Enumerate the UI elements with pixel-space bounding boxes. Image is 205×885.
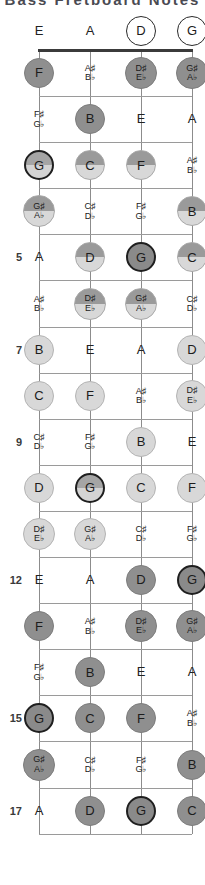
note-marker[interactable]: A♯B♭: [136, 386, 147, 405]
note-circle[interactable]: F: [126, 150, 156, 180]
note-marker[interactable]: C♯D♭: [85, 202, 96, 221]
note-circle[interactable]: D: [126, 16, 156, 46]
note-marker[interactable]: F♯G♭: [33, 663, 44, 682]
note-circle[interactable]: D: [24, 473, 54, 503]
note-marker[interactable]: D♯E♭: [125, 610, 157, 642]
note-marker[interactable]: A: [35, 804, 44, 817]
note-circle[interactable]: G: [126, 242, 156, 272]
note-circle[interactable]: G♯A♭: [176, 57, 205, 89]
note-marker[interactable]: A: [86, 24, 95, 37]
note-marker[interactable]: F♯G♭: [135, 755, 146, 774]
note-circle[interactable]: B: [126, 427, 156, 457]
note-marker[interactable]: A: [86, 573, 95, 586]
note-marker[interactable]: E: [35, 573, 44, 586]
note-marker[interactable]: C♯D♭: [136, 525, 147, 544]
note-circle[interactable]: G: [24, 703, 54, 733]
note-marker[interactable]: D♯E♭: [23, 518, 55, 550]
note-circle[interactable]: F: [24, 611, 54, 641]
note-marker[interactable]: F: [177, 473, 205, 503]
note-marker[interactable]: D: [177, 335, 205, 365]
note-circle[interactable]: C: [177, 796, 205, 826]
note-marker[interactable]: A: [188, 666, 197, 679]
note-circle[interactable]: F: [75, 381, 105, 411]
note-circle[interactable]: F: [177, 473, 205, 503]
note-marker[interactable]: E: [188, 435, 197, 448]
note-marker[interactable]: E: [35, 24, 44, 37]
note-circle[interactable]: G: [75, 473, 105, 503]
note-circle[interactable]: G♯A♭: [74, 518, 106, 550]
note-marker[interactable]: A♯B♭: [85, 617, 96, 636]
note-marker[interactable]: D♯E♭: [74, 288, 106, 320]
note-marker[interactable]: C: [126, 473, 156, 503]
note-circle[interactable]: G: [177, 16, 205, 46]
note-circle[interactable]: D♯E♭: [125, 610, 157, 642]
note-marker[interactable]: C: [75, 150, 105, 180]
note-marker[interactable]: E: [137, 666, 146, 679]
note-marker[interactable]: G♯A♭: [23, 195, 55, 227]
note-marker[interactable]: E: [86, 343, 95, 356]
note-marker[interactable]: F: [24, 611, 54, 641]
note-marker[interactable]: G: [24, 703, 54, 733]
note-marker[interactable]: F: [24, 58, 54, 88]
note-marker[interactable]: G: [126, 242, 156, 272]
note-marker[interactable]: G♯A♭: [74, 518, 106, 550]
note-circle[interactable]: D: [75, 242, 105, 272]
note-marker[interactable]: G♯A♭: [23, 749, 55, 781]
note-circle[interactable]: G: [177, 565, 205, 595]
note-marker[interactable]: F: [75, 381, 105, 411]
note-circle[interactable]: D♯E♭: [74, 288, 106, 320]
note-marker[interactable]: E: [137, 112, 146, 125]
note-circle[interactable]: G: [126, 796, 156, 826]
note-marker[interactable]: D: [75, 242, 105, 272]
note-marker[interactable]: C♯D♭: [85, 755, 96, 774]
note-marker[interactable]: C: [177, 242, 205, 272]
note-circle[interactable]: B: [24, 335, 54, 365]
note-circle[interactable]: D: [177, 335, 205, 365]
note-circle[interactable]: F: [24, 58, 54, 88]
note-marker[interactable]: B: [24, 335, 54, 365]
note-marker[interactable]: D: [75, 796, 105, 826]
note-marker[interactable]: C: [24, 381, 54, 411]
note-circle[interactable]: D: [75, 796, 105, 826]
note-circle[interactable]: D: [126, 565, 156, 595]
note-marker[interactable]: G: [177, 16, 205, 46]
note-circle[interactable]: G♯A♭: [125, 288, 157, 320]
note-circle[interactable]: G♯A♭: [176, 610, 205, 642]
note-circle[interactable]: D♯E♭: [125, 57, 157, 89]
note-marker[interactable]: G: [75, 473, 105, 503]
note-marker[interactable]: A: [137, 343, 146, 356]
note-marker[interactable]: G: [24, 150, 54, 180]
note-marker[interactable]: A♯B♭: [187, 709, 198, 728]
note-marker[interactable]: B: [126, 427, 156, 457]
note-marker[interactable]: A♯B♭: [187, 156, 198, 175]
note-circle[interactable]: B: [177, 196, 205, 226]
note-circle[interactable]: C: [75, 150, 105, 180]
note-marker[interactable]: G: [126, 796, 156, 826]
note-marker[interactable]: G♯A♭: [176, 57, 205, 89]
note-circle[interactable]: C: [177, 242, 205, 272]
note-circle[interactable]: G: [24, 150, 54, 180]
note-marker[interactable]: G: [177, 565, 205, 595]
note-marker[interactable]: G♯A♭: [125, 288, 157, 320]
note-circle[interactable]: C: [75, 703, 105, 733]
note-marker[interactable]: A♯B♭: [34, 294, 45, 313]
note-circle[interactable]: G♯A♭: [23, 195, 55, 227]
note-marker[interactable]: C: [75, 703, 105, 733]
note-marker[interactable]: D♯E♭: [125, 57, 157, 89]
note-marker[interactable]: A♯B♭: [85, 64, 96, 83]
note-marker[interactable]: A: [35, 251, 44, 264]
note-circle[interactable]: D♯E♭: [23, 518, 55, 550]
note-circle[interactable]: D♯E♭: [176, 380, 205, 412]
note-marker[interactable]: B: [75, 104, 105, 134]
note-circle[interactable]: F: [126, 703, 156, 733]
note-marker[interactable]: A: [188, 112, 197, 125]
note-marker[interactable]: B: [75, 657, 105, 687]
note-marker[interactable]: D: [24, 473, 54, 503]
note-marker[interactable]: B: [177, 196, 205, 226]
note-marker[interactable]: B: [177, 750, 205, 780]
note-marker[interactable]: C♯D♭: [34, 432, 45, 451]
note-marker[interactable]: F: [126, 703, 156, 733]
note-circle[interactable]: B: [75, 104, 105, 134]
note-circle[interactable]: B: [75, 657, 105, 687]
note-marker[interactable]: F♯G♭: [33, 110, 44, 129]
